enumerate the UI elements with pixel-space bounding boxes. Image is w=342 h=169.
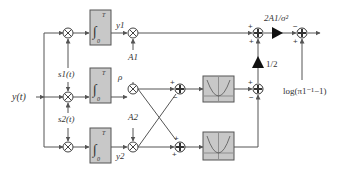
block-diagram: ∫∫∫ T0 T0 T0 y(t) s1(t) s2(t) y1 ρ y2 A1… [0,0,342,169]
svg-text:+: + [170,78,175,87]
svg-text:0: 0 [97,96,100,102]
svg-text:−: − [173,93,178,102]
svg-text:−: − [293,22,298,31]
gain-triangle-icon [272,27,283,39]
svg-text:+: + [293,37,298,46]
svg-text:−: − [249,93,254,102]
input-label: y(t) [11,91,27,103]
squarer-block [203,76,234,160]
rho-label: ρ [117,72,123,82]
svg-text:+: + [174,134,179,143]
s1-label: s1(t) [58,69,75,79]
svg-text:+: + [249,37,254,46]
svg-text:+: + [248,22,253,31]
a2-label: A2 [127,112,138,122]
svg-text:+: + [172,150,177,159]
svg-text:0: 0 [97,38,100,44]
svg-text:0: 0 [97,156,100,162]
svg-text:+: + [248,78,253,87]
s2-label: s2(t) [58,114,75,124]
y1-label: y1 [115,20,125,30]
half-gain-triangle-icon [252,56,264,68]
bias-label: log(π1⁻¹−1) [283,86,327,96]
a1-label: A1 [127,52,138,62]
half-gain-label: 1/2 [266,59,278,69]
y2-label: y2 [115,151,125,161]
gain-label: 2A1/σ² [264,13,288,23]
